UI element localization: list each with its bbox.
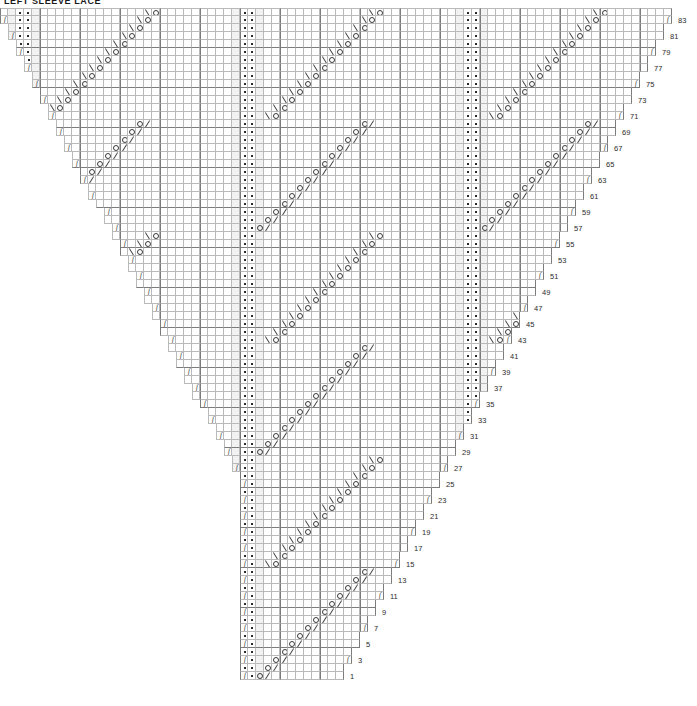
chart-cell[interactable] [64,72,72,80]
chart-cell[interactable] [352,136,360,144]
chart-cell[interactable] [528,168,536,176]
chart-cell[interactable] [320,304,328,312]
chart-cell[interactable] [360,416,368,424]
chart-cell[interactable] [312,184,320,192]
chart-cell[interactable] [256,48,264,56]
chart-cell[interactable] [248,80,256,88]
chart-cell[interactable] [272,272,280,280]
chart-cell[interactable] [344,104,352,112]
chart-cell[interactable] [264,72,272,80]
chart-cell[interactable] [312,208,320,216]
chart-cell[interactable] [24,56,32,64]
chart-cell[interactable] [296,8,304,16]
chart-cell[interactable] [480,304,488,312]
chart-cell[interactable] [248,640,256,648]
chart-cell[interactable] [392,304,400,312]
chart-cell[interactable] [240,16,248,24]
chart-cell[interactable] [80,16,88,24]
chart-cell[interactable] [160,56,168,64]
chart-cell[interactable] [256,440,264,448]
chart-cell[interactable] [368,88,376,96]
chart-cell[interactable] [272,456,280,464]
chart-cell[interactable] [512,248,520,256]
chart-cell[interactable] [224,48,232,56]
chart-cell[interactable] [72,56,80,64]
chart-cell[interactable] [368,488,376,496]
chart-cell[interactable] [360,304,368,312]
chart-cell[interactable] [592,144,600,152]
chart-cell[interactable] [104,64,112,72]
chart-cell[interactable] [432,104,440,112]
chart-cell[interactable] [408,432,416,440]
chart-cell[interactable] [272,112,280,120]
chart-cell[interactable] [224,128,232,136]
chart-cell[interactable] [408,408,416,416]
chart-cell[interactable] [184,368,192,376]
chart-cell[interactable] [528,184,536,192]
chart-cell[interactable] [208,352,216,360]
chart-cell[interactable] [496,192,504,200]
chart-cell[interactable] [200,216,208,224]
chart-cell[interactable] [400,232,408,240]
chart-cell[interactable] [456,208,464,216]
chart-cell[interactable] [544,144,552,152]
chart-cell[interactable] [280,536,288,544]
chart-cell[interactable] [312,600,320,608]
chart-cell[interactable] [392,112,400,120]
chart-cell[interactable] [296,368,304,376]
chart-cell[interactable] [408,232,416,240]
chart-cell[interactable] [32,24,40,32]
chart-cell[interactable] [248,560,256,568]
chart-cell[interactable] [320,640,328,648]
chart-cell[interactable] [392,432,400,440]
chart-cell[interactable] [384,312,392,320]
chart-cell[interactable] [336,304,344,312]
chart-cell[interactable] [304,168,312,176]
chart-cell[interactable] [280,192,288,200]
chart-cell[interactable] [224,408,232,416]
chart-cell[interactable] [120,144,128,152]
chart-cell[interactable] [264,16,272,24]
chart-cell[interactable] [248,176,256,184]
chart-cell[interactable] [432,184,440,192]
chart-cell[interactable] [272,344,280,352]
chart-cell[interactable] [320,528,328,536]
chart-cell[interactable] [360,192,368,200]
chart-cell[interactable] [144,112,152,120]
chart-cell[interactable] [256,96,264,104]
chart-cell[interactable] [360,208,368,216]
chart-cell[interactable] [192,336,200,344]
chart-cell[interactable] [344,8,352,16]
chart-cell[interactable] [168,72,176,80]
chart-cell[interactable] [240,304,248,312]
chart-cell[interactable] [272,608,280,616]
chart-cell[interactable] [304,160,312,168]
chart-cell[interactable] [456,344,464,352]
chart-cell[interactable] [384,264,392,272]
chart-cell[interactable] [416,208,424,216]
chart-cell[interactable] [96,136,104,144]
chart-cell[interactable] [368,576,376,584]
chart-cell[interactable] [648,24,656,32]
chart-cell[interactable] [552,40,560,48]
chart-cell[interactable] [360,240,368,248]
chart-cell[interactable] [200,328,208,336]
chart-cell[interactable] [192,40,200,48]
chart-cell[interactable] [280,248,288,256]
chart-cell[interactable] [64,24,72,32]
chart-cell[interactable] [96,64,104,72]
chart-cell[interactable] [416,280,424,288]
chart-cell[interactable] [160,288,168,296]
chart-cell[interactable] [576,56,584,64]
chart-cell[interactable] [280,528,288,536]
chart-cell[interactable] [416,64,424,72]
chart-cell[interactable] [128,256,136,264]
chart-cell[interactable] [296,504,304,512]
chart-cell[interactable] [392,264,400,272]
chart-cell[interactable] [240,240,248,248]
chart-cell[interactable] [336,456,344,464]
chart-cell[interactable] [352,560,360,568]
chart-cell[interactable] [480,40,488,48]
chart-cell[interactable] [280,296,288,304]
chart-cell[interactable] [192,104,200,112]
